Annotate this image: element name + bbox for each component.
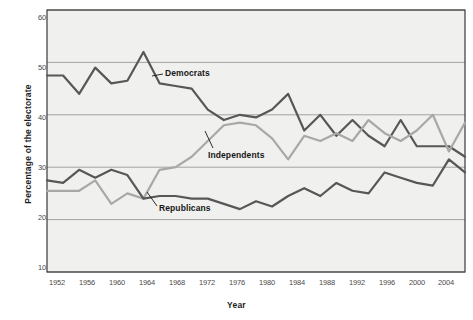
y-tick-10: 10 <box>18 263 46 272</box>
y-tick-60: 60 <box>18 13 46 22</box>
series-label-democrats: Democrats <box>165 68 210 78</box>
series-label-independents: Independents <box>208 150 264 160</box>
y-axis-tick-group: 60 50 40 30 20 10 <box>14 0 46 320</box>
chart-container: Percentage of the electorate 60 50 40 30… <box>0 0 473 320</box>
x-axis-title: Year <box>0 300 473 310</box>
y-tick-50: 50 <box>18 63 46 72</box>
series-label-republicans: Republicans <box>159 203 211 213</box>
plot-area <box>0 0 473 320</box>
y-tick-30: 30 <box>18 163 46 172</box>
y-tick-40: 40 <box>18 113 46 122</box>
y-tick-20: 20 <box>18 213 46 222</box>
x-tick-2004: 2004 <box>426 278 466 287</box>
